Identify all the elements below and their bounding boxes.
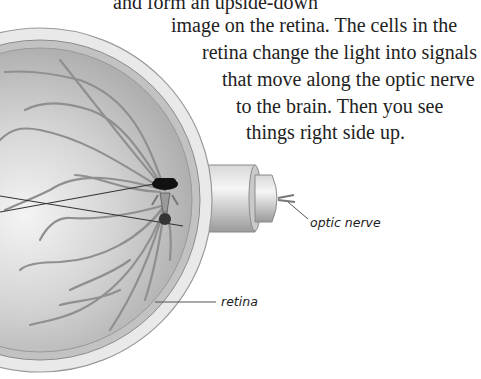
optic-nerve-shape: [205, 165, 295, 232]
optic-nerve-leader-line: [288, 202, 308, 219]
body-text-line-2: image on the retina. The cells in the: [171, 15, 457, 35]
body-text-line-1: and form an upside-down: [113, 0, 318, 12]
body-text-line-5: to the brain. Then you see: [236, 96, 443, 116]
body-text-line-3: retina change the light into signals: [202, 42, 477, 62]
retina-label: retina: [221, 294, 258, 309]
optic-nerve-label: optic nerve: [310, 215, 381, 230]
body-text-line-4: that move along the optic nerve: [222, 69, 475, 89]
body-text-line-6: things right side up.: [246, 122, 405, 142]
